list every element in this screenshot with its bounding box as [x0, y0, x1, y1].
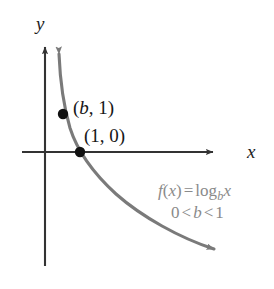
point-marker-b-1	[58, 109, 68, 119]
formula-paren-close: )	[176, 181, 182, 200]
paren-close: )	[119, 125, 125, 146]
domain-less-than-2: <	[202, 203, 216, 222]
point-y-value: 0	[109, 125, 119, 146]
domain-variable: b	[193, 203, 202, 222]
point-x-value: b	[79, 97, 89, 118]
function-annotation: f(x)=logbx 0<b<1	[158, 181, 231, 223]
logarithmic-function-graph: y x (b, 1) (1, 0) f(x)=logbx 0<b<1	[0, 0, 274, 289]
x-axis-label: x	[247, 142, 255, 161]
domain-lower-bound: 0	[171, 203, 180, 222]
point-label-1-0: (1, 0)	[84, 126, 125, 145]
formula-equals: =	[182, 181, 196, 200]
function-formula: f(x)=logbx	[158, 181, 231, 203]
y-axis-label: y	[36, 14, 44, 33]
point-x-value: 1	[90, 125, 100, 146]
formula-operand: x	[223, 181, 231, 200]
formula-argument: x	[168, 181, 176, 200]
point-y-value: 1	[98, 97, 108, 118]
point-separator: ,	[100, 125, 110, 146]
point-label-b-1: (b, 1)	[73, 98, 114, 117]
point-separator: ,	[89, 97, 99, 118]
graph-canvas	[0, 0, 274, 289]
formula-log: log	[195, 181, 217, 200]
paren-close: )	[108, 97, 114, 118]
domain-less-than-1: <	[180, 203, 194, 222]
point-marker-1-0	[75, 147, 85, 157]
domain-upper-bound: 1	[215, 203, 224, 222]
base-domain-constraint: 0<b<1	[158, 203, 231, 223]
